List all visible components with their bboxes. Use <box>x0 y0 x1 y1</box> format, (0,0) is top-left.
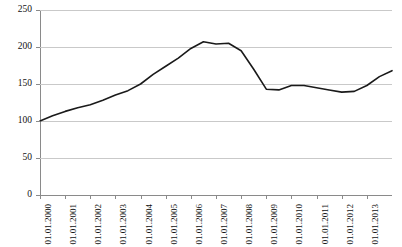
x-tick-mark <box>241 195 242 199</box>
x-tick-label: 01.01.2005 <box>170 204 179 245</box>
x-tick-mark <box>191 195 192 199</box>
chart-title <box>60 0 360 2</box>
x-tick-mark <box>40 195 41 199</box>
x-tick-label: 01.01.2012 <box>346 204 355 245</box>
series-line <box>40 10 392 195</box>
x-tick-label: 01.01.2010 <box>295 204 304 245</box>
y-tick-mark <box>36 121 40 122</box>
y-tick-mark <box>36 158 40 159</box>
x-tick-mark <box>291 195 292 199</box>
x-tick-label: 01.01.2006 <box>195 204 204 245</box>
x-tick-mark <box>141 195 142 199</box>
y-tick-label: 0 <box>2 190 32 200</box>
x-tick-label: 01.01.2008 <box>245 204 254 245</box>
x-tick-label: 01.01.2011 <box>321 204 330 244</box>
y-tick-label: 50 <box>2 153 32 163</box>
x-tick-label: 01.01.2002 <box>94 204 103 245</box>
plot-area <box>40 10 392 195</box>
x-tick-label: 01.01.2009 <box>270 204 279 245</box>
x-tick-label: 01.01.2013 <box>371 204 380 245</box>
y-tick-label: 200 <box>2 42 32 52</box>
y-tick-label: 150 <box>2 79 32 89</box>
x-tick-label: 01.01.2000 <box>44 204 53 245</box>
x-tick-mark <box>90 195 91 199</box>
x-tick-label: 01.01.2001 <box>69 204 78 245</box>
x-tick-mark <box>367 195 368 199</box>
x-tick-mark <box>216 195 217 199</box>
y-tick-label: 250 <box>2 5 32 15</box>
x-tick-label: 01.01.2004 <box>145 204 154 245</box>
y-tick-mark <box>36 47 40 48</box>
line-chart: 050100150200250 01.01.200001.01.200101.0… <box>0 0 402 247</box>
y-tick-mark <box>36 10 40 11</box>
x-tick-mark <box>342 195 343 199</box>
x-tick-mark <box>166 195 167 199</box>
x-tick-mark <box>115 195 116 199</box>
x-tick-mark <box>317 195 318 199</box>
x-tick-mark <box>65 195 66 199</box>
x-tick-label: 01.01.2007 <box>220 204 229 245</box>
y-tick-mark <box>36 84 40 85</box>
x-tick-label: 01.01.2003 <box>119 204 128 245</box>
x-tick-mark <box>266 195 267 199</box>
y-tick-label: 100 <box>2 116 32 126</box>
